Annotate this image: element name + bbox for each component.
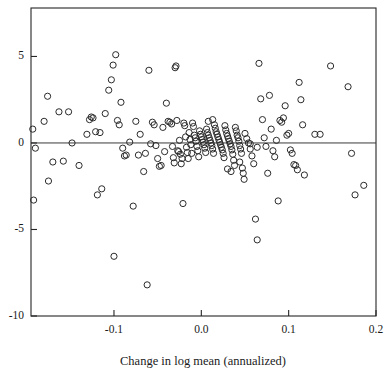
- data-point: [99, 186, 105, 192]
- data-point: [41, 118, 47, 124]
- data-point: [135, 152, 141, 158]
- data-point: [94, 192, 100, 198]
- data-point: [118, 99, 124, 105]
- data-point: [162, 149, 168, 155]
- y-tick-label: -10: [9, 309, 25, 321]
- data-point: [222, 123, 228, 129]
- y-axis-tick-labels: 50-5-10: [9, 49, 25, 321]
- data-point: [258, 96, 264, 102]
- data-point: [56, 109, 62, 115]
- x-tick-label: 0.2: [369, 323, 384, 335]
- data-point: [296, 79, 302, 85]
- data-point: [60, 158, 66, 164]
- data-point: [44, 93, 50, 99]
- data-point: [259, 117, 265, 123]
- data-point: [298, 97, 304, 103]
- x-axis-title: Change in log mean (annualized): [120, 354, 286, 368]
- data-point: [111, 253, 117, 259]
- data-point: [142, 150, 148, 156]
- data-point: [221, 155, 227, 161]
- data-point: [203, 149, 209, 155]
- data-point: [108, 77, 114, 83]
- data-point: [163, 100, 169, 106]
- data-point: [361, 182, 367, 188]
- scatter-plot-figure: 50-5-10 -0.10.00.10.2 Change in log mean…: [0, 0, 390, 377]
- data-point: [32, 145, 38, 151]
- data-point: [141, 168, 147, 174]
- data-point: [327, 63, 333, 69]
- data-point: [345, 84, 351, 90]
- data-point: [241, 176, 247, 182]
- data-point: [180, 200, 186, 206]
- y-tick-label: -5: [14, 222, 24, 234]
- data-point: [256, 60, 262, 66]
- x-tick-label: 0.0: [194, 323, 209, 335]
- data-point: [65, 109, 71, 115]
- data-point: [266, 92, 272, 98]
- y-axis-ticks: [31, 56, 37, 316]
- data-point: [169, 143, 175, 149]
- data-point: [102, 110, 108, 116]
- x-axis-ticks: [114, 310, 376, 316]
- data-point: [286, 130, 292, 136]
- data-point: [110, 62, 116, 68]
- data-point: [300, 122, 306, 128]
- data-point: [352, 192, 358, 198]
- data-point: [237, 159, 243, 165]
- data-point: [189, 150, 195, 156]
- data-point: [174, 117, 180, 123]
- plot-frame: [31, 8, 376, 316]
- data-point: [254, 237, 260, 243]
- data-point: [196, 154, 202, 160]
- data-point: [155, 155, 161, 161]
- x-axis-tick-labels: -0.10.00.10.2: [105, 323, 384, 335]
- data-point: [195, 148, 201, 154]
- data-point: [301, 172, 307, 178]
- data-points-group: [30, 52, 367, 288]
- data-point: [146, 67, 152, 73]
- data-point: [275, 198, 281, 204]
- data-point: [127, 139, 133, 145]
- data-point: [249, 153, 255, 159]
- y-tick-label: 0: [18, 136, 24, 148]
- y-tick-label: 5: [18, 49, 24, 61]
- data-point: [93, 129, 99, 135]
- data-point: [268, 126, 274, 132]
- data-point: [265, 170, 271, 176]
- x-tick-label: 0.1: [281, 323, 296, 335]
- data-point: [76, 162, 82, 168]
- data-point: [113, 52, 119, 58]
- data-point: [137, 131, 143, 137]
- data-point: [272, 154, 278, 160]
- plot-canvas: 50-5-10 -0.10.00.10.2 Change in log mean…: [0, 0, 390, 377]
- data-point: [261, 135, 267, 141]
- data-point: [97, 129, 103, 135]
- data-point: [84, 131, 90, 137]
- data-point: [230, 151, 236, 157]
- data-point: [210, 150, 216, 156]
- data-point: [270, 148, 276, 154]
- x-tick-label: -0.1: [105, 323, 123, 335]
- data-point: [263, 143, 269, 149]
- data-point: [238, 150, 244, 156]
- data-point: [144, 282, 150, 288]
- data-point: [106, 87, 112, 93]
- data-point: [45, 178, 51, 184]
- data-point: [284, 132, 290, 138]
- data-point: [120, 145, 126, 151]
- data-point: [348, 150, 354, 156]
- data-point: [252, 216, 258, 222]
- data-point: [50, 159, 56, 165]
- data-point: [254, 144, 260, 150]
- data-point: [251, 161, 257, 167]
- data-point: [160, 124, 166, 130]
- data-point: [282, 103, 288, 109]
- data-point: [133, 118, 139, 124]
- data-point: [130, 203, 136, 209]
